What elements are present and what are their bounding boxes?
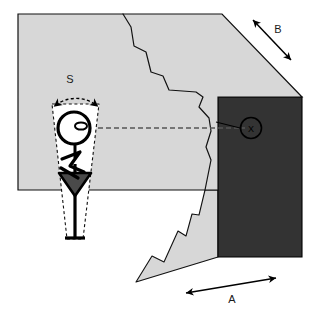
label-x: X	[248, 124, 254, 134]
label-a: A	[228, 293, 236, 305]
arrow-dimension-a[interactable]: A	[186, 278, 276, 305]
dark-face	[218, 97, 302, 257]
observer-figure	[58, 112, 91, 238]
label-b: B	[274, 23, 281, 35]
technical-diagram: S B A X	[0, 0, 319, 312]
figure-root: S B A X	[0, 0, 319, 312]
lower-wedge	[136, 190, 218, 282]
label-s: S	[66, 73, 73, 85]
